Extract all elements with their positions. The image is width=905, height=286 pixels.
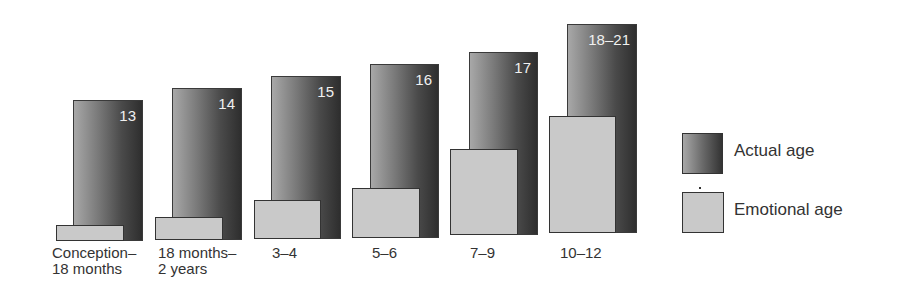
bar-value-label: 17 [514, 59, 531, 76]
x-tick-label-line: 18 months [52, 261, 136, 277]
x-tick-label-line: 2 years [158, 261, 236, 277]
legend-label-actual-age: Actual age [734, 141, 814, 161]
bar-emotional-age-3 [254, 200, 321, 239]
x-tick-label-line: Conception– [52, 245, 136, 261]
bar-value-label: 16 [415, 71, 432, 88]
bar-emotional-age-2 [155, 217, 223, 240]
bar-value-label: 15 [317, 83, 334, 100]
bar-chart: 13 Conception– 18 months 14 18 months– 2… [0, 0, 905, 286]
x-tick-label: 7–9 [470, 245, 495, 261]
x-tick-label-line: 5–6 [372, 245, 397, 261]
bar-emotional-age-5 [450, 149, 518, 235]
x-tick-label: 3–4 [272, 245, 297, 261]
x-tick-label-line: 7–9 [470, 245, 495, 261]
x-tick-label-line: 18 months– [158, 245, 236, 261]
bar-actual-age-1: 13 [73, 100, 143, 241]
bar-value-label: 18–21 [588, 31, 630, 48]
x-tick-label: Conception– 18 months [52, 245, 136, 277]
x-tick-label: 5–6 [372, 245, 397, 261]
legend-dot [699, 187, 701, 189]
legend-label-emotional-age: Emotional age [734, 200, 843, 220]
x-tick-label: 10–12 [560, 245, 602, 261]
x-tick-label-line: 3–4 [272, 245, 297, 261]
bar-value-label: 14 [218, 95, 235, 112]
legend-swatch-actual-age [682, 133, 723, 174]
x-tick-label: 18 months– 2 years [158, 245, 236, 277]
bar-emotional-age-1 [56, 225, 124, 241]
bar-value-label: 13 [119, 107, 136, 124]
bar-emotional-age-6 [549, 116, 616, 233]
bar-emotional-age-4 [352, 188, 420, 238]
x-tick-label-line: 10–12 [560, 245, 602, 261]
legend-swatch-emotional-age [682, 192, 724, 233]
